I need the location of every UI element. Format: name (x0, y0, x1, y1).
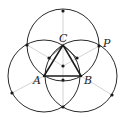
point-top (61, 9, 64, 12)
point-A (43, 75, 45, 77)
point-left-lower (10, 91, 13, 94)
point-right-lower (110, 93, 113, 96)
point-P (97, 44, 100, 47)
triangle-ABC (44, 45, 81, 76)
point-centroid (61, 64, 64, 67)
points (10, 9, 113, 108)
point-B (80, 75, 82, 77)
point-left-upper (25, 43, 28, 46)
label-B: B (83, 74, 92, 87)
label-A: A (32, 74, 41, 87)
geometry-diagram: C P A B (0, 0, 123, 117)
point-mid-AC (47, 56, 50, 59)
point-mid-BC (75, 56, 78, 59)
point-mid-AB (61, 78, 64, 81)
circles (8, 9, 117, 112)
label-C: C (59, 32, 68, 45)
construction-rays (12, 11, 112, 107)
label-P: P (102, 37, 111, 50)
point-bottom (61, 105, 64, 108)
